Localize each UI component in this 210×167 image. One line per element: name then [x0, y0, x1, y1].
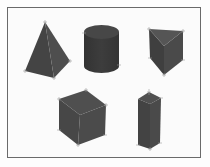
shapes-layer	[0, 0, 210, 167]
diagram-canvas	[0, 0, 210, 167]
cube	[57, 88, 108, 147]
cylinder	[82, 25, 121, 73]
rectangular-prism	[136, 89, 163, 151]
rect-prism-face-right	[150, 98, 161, 149]
cylinder-top	[84, 25, 119, 39]
triangular-prism	[147, 27, 185, 77]
rect-prism-face-left	[138, 99, 150, 149]
square-pyramid	[23, 20, 72, 80]
